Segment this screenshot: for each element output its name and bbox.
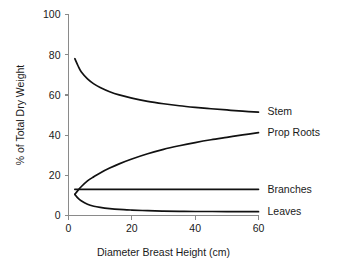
series-curve-leaves	[75, 194, 259, 211]
series-inline-labels: StemProp RootsBranchesLeaves	[268, 105, 321, 216]
x-axis-title: Diameter Breast Height (cm)	[97, 246, 230, 258]
x-axis	[69, 216, 259, 220]
y-axis	[65, 15, 69, 216]
x-tick-label: 40	[189, 222, 201, 234]
series-curve-stem	[75, 59, 259, 112]
series-curve-prop-roots	[75, 133, 259, 195]
series-curves	[75, 59, 259, 212]
series-label-branches: Branches	[268, 183, 312, 195]
y-axis-tick-labels: 020406080100	[43, 8, 61, 221]
y-tick-label: 0	[55, 209, 61, 221]
x-tick-label: 60	[253, 222, 265, 234]
biomass-allocation-chart: 020406080100 0204060 StemProp RootsBranc…	[0, 0, 341, 275]
series-label-prop-roots: Prop Roots	[268, 126, 321, 138]
chart-container: 020406080100 0204060 StemProp RootsBranc…	[0, 0, 341, 275]
x-axis-tick-labels: 0204060	[66, 222, 265, 234]
x-tick-label: 20	[126, 222, 138, 234]
y-axis-title: % of Total Dry Weight	[14, 65, 26, 166]
y-tick-label: 40	[49, 129, 61, 141]
y-tick-label: 20	[49, 169, 61, 181]
series-label-stem: Stem	[268, 105, 293, 117]
y-tick-label: 60	[49, 89, 61, 101]
y-tick-label: 100	[43, 8, 61, 20]
x-tick-label: 0	[66, 222, 72, 234]
y-tick-label: 80	[49, 49, 61, 61]
series-label-leaves: Leaves	[268, 205, 302, 217]
